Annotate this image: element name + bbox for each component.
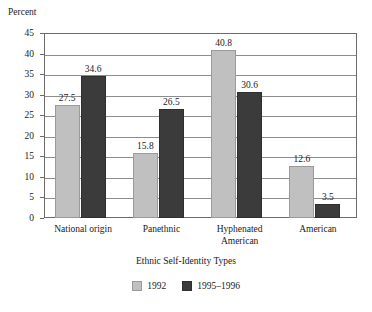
y-tick-label: 0	[8, 213, 34, 223]
bar	[315, 204, 340, 218]
bar	[211, 50, 236, 218]
bar-value-label: 3.5	[309, 192, 346, 202]
y-tick-mark	[40, 218, 44, 219]
y-tick-label: 35	[8, 69, 34, 79]
y-tick-label: 45	[8, 28, 34, 38]
y-tick-label: 20	[8, 131, 34, 141]
bar	[55, 105, 80, 218]
y-axis-unit-label: Percent	[8, 6, 37, 18]
bar	[237, 92, 262, 218]
y-tick-label: 25	[8, 110, 34, 120]
legend-swatch-1995-1996	[182, 281, 192, 291]
legend-item: 1995–1996	[182, 281, 240, 291]
bar	[159, 109, 184, 218]
y-tick-label: 10	[8, 172, 34, 182]
bar-value-label: 26.5	[153, 97, 190, 107]
y-tick-label: 15	[8, 151, 34, 161]
bar	[81, 76, 106, 218]
y-tick-label: 30	[8, 90, 34, 100]
bar-value-label: 12.6	[283, 154, 320, 164]
x-axis-title: Ethnic Self-Identity Types	[0, 256, 372, 267]
y-tick-label: 5	[8, 192, 34, 202]
legend-label: 1995–1996	[197, 281, 240, 291]
legend-swatch-1992	[132, 281, 142, 291]
bars-layer: 27.534.615.826.540.830.612.63.5	[44, 33, 357, 218]
bar-value-label: 30.6	[231, 80, 268, 90]
legend-label: 1992	[147, 281, 166, 291]
chart-legend: 19921995–1996	[0, 281, 372, 291]
bar-value-label: 34.6	[75, 64, 112, 74]
y-tick-label: 40	[8, 49, 34, 59]
bar-value-label: 40.8	[205, 38, 242, 48]
legend-item: 1992	[132, 281, 166, 291]
bar	[133, 153, 158, 218]
x-category-label: American	[267, 224, 369, 236]
